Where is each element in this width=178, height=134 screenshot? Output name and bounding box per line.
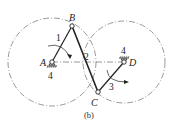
figure-caption: (b) — [84, 110, 94, 120]
label-link-3: 3 — [109, 82, 114, 92]
label-ground-A: 4 — [48, 71, 53, 81]
label-link-1: 1 — [56, 33, 61, 43]
label-ground-D: 4 — [121, 46, 126, 56]
joint-A — [50, 60, 54, 64]
joint-B — [70, 24, 74, 28]
label-joint-C: C — [91, 97, 98, 108]
label-joint-A: A — [39, 57, 47, 68]
label-joint-B: B — [69, 12, 75, 23]
label-joint-D: D — [128, 57, 137, 68]
joint-C — [96, 90, 100, 94]
label-link-2: 2 — [84, 52, 89, 62]
four-bar-linkage-diagram: A B C D 1 2 3 4 4 (b) — [0, 0, 178, 134]
joint-D — [122, 60, 126, 64]
